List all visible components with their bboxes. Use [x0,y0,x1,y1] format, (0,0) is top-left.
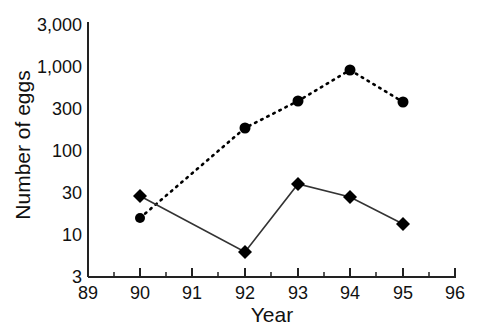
data-point-diamond [343,190,357,204]
data-point-circle [135,213,145,223]
plot-area [0,0,485,336]
data-point-circle [293,96,304,107]
series-line-solid-diamond [140,184,403,252]
data-point-circle [240,123,251,134]
data-point-diamond [238,245,252,259]
series-line-dotted-circle [140,70,403,218]
data-point-diamond [291,177,305,191]
series-markers-circle [135,65,409,224]
chart-figure: Number of eggs 3,000 1,000 300 100 30 10… [0,0,485,336]
data-point-circle [345,65,356,76]
data-point-diamond [396,217,410,231]
data-point-circle [398,97,409,108]
data-point-diamond [133,189,147,203]
